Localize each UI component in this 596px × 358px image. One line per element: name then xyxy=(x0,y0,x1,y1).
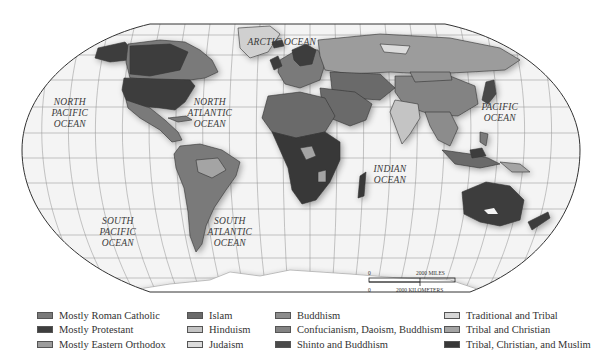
legend-label: Traditional and Tribal xyxy=(466,310,558,321)
legend: Mostly Roman Catholic Mostly Protestant … xyxy=(0,308,596,358)
legend-item-confucianism: Confucianism, Daoism, Buddhism xyxy=(275,323,442,338)
scale-km-label: 2000 KILOMETERS xyxy=(396,287,443,293)
legend-item-hinduism: Hinduism xyxy=(187,323,250,338)
label-indian-ocean: INDIAN OCEAN xyxy=(374,164,407,186)
legend-label: Mostly Protestant xyxy=(59,324,133,335)
legend-column-3: Buddhism Confucianism, Daoism, Buddhism … xyxy=(275,308,442,352)
legend-item-roman-catholic: Mostly Roman Catholic xyxy=(37,308,166,323)
legend-label: Tribal and Christian xyxy=(466,324,550,335)
legend-label: Islam xyxy=(209,310,232,321)
legend-column-christianity: Mostly Roman Catholic Mostly Protestant … xyxy=(37,308,166,352)
legend-swatch xyxy=(37,341,53,348)
legend-swatch xyxy=(187,326,203,333)
legend-item-judaism: Judaism xyxy=(187,337,250,352)
legend-swatch xyxy=(187,312,203,319)
label-south-pacific-ocean: SOUTH PACIFIC OCEAN xyxy=(100,216,137,249)
legend-label: Buddhism xyxy=(297,310,340,321)
label-south-atlantic-ocean: SOUTH ATLANTIC OCEAN xyxy=(208,216,253,249)
legend-item-protestant: Mostly Protestant xyxy=(37,323,166,338)
label-north-pacific-ocean: NORTH PACIFIC OCEAN xyxy=(52,97,89,130)
legend-column-2: Islam Hinduism Judaism xyxy=(187,308,250,352)
legend-column-4: Traditional and Tribal Tribal and Christ… xyxy=(444,308,591,352)
legend-label: Mostly Roman Catholic xyxy=(59,310,160,321)
legend-swatch xyxy=(444,326,460,333)
scale-km-zero: 0 xyxy=(368,287,371,293)
legend-label: Confucianism, Daoism, Buddhism xyxy=(297,324,442,335)
legend-label: Tribal, Christian, and Muslim xyxy=(466,339,591,350)
legend-label: Hinduism xyxy=(209,324,250,335)
legend-item-eastern-orthodox: Mostly Eastern Orthodox xyxy=(37,337,166,352)
legend-swatch xyxy=(444,312,460,319)
label-arctic-ocean: ARCTIC OCEAN xyxy=(248,37,317,48)
legend-item-buddhism: Buddhism xyxy=(275,308,442,323)
legend-swatch xyxy=(275,341,291,348)
legend-item-tribal-christian: Tribal and Christian xyxy=(444,323,591,338)
north-africa xyxy=(262,92,335,138)
legend-swatch xyxy=(187,341,203,348)
legend-swatch xyxy=(275,326,291,333)
scale-bar: 0 2000 MILES 0 2000 KILOMETERS xyxy=(368,270,478,298)
legend-item-tribal-christian-muslim: Tribal, Christian, and Muslim xyxy=(444,337,591,352)
legend-swatch xyxy=(37,312,53,319)
scale-bar-lines xyxy=(368,277,458,287)
legend-item-islam: Islam xyxy=(187,308,250,323)
scale-miles-zero: 0 xyxy=(368,270,371,276)
label-pacific-ocean: PACIFIC OCEAN xyxy=(482,102,519,124)
legend-label: Judaism xyxy=(209,339,243,350)
legend-item-traditional-tribal: Traditional and Tribal xyxy=(444,308,591,323)
legend-label: Mostly Eastern Orthodox xyxy=(59,339,166,350)
legend-swatch xyxy=(37,326,53,333)
scale-miles-label: 2000 MILES xyxy=(416,270,445,276)
legend-swatch xyxy=(275,312,291,319)
legend-label: Shinto and Buddhism xyxy=(297,339,388,350)
label-north-atlantic-ocean: NORTH ATLANTIC OCEAN xyxy=(188,97,233,130)
legend-swatch xyxy=(444,341,460,348)
legend-item-shinto: Shinto and Buddhism xyxy=(275,337,442,352)
